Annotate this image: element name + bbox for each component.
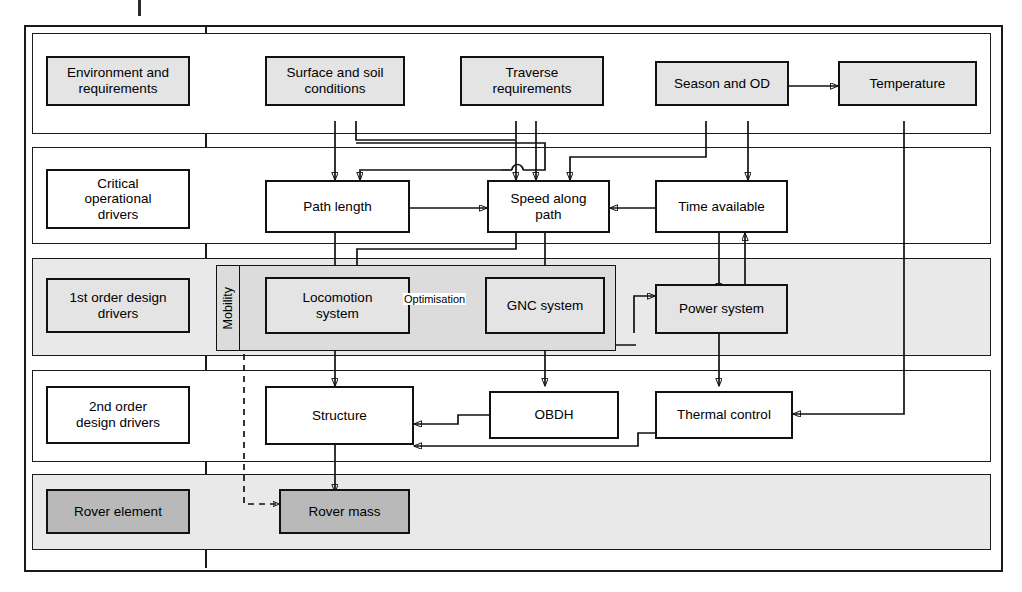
node-critical-operational-drivers[interactable]: Critical operational drivers (46, 169, 190, 229)
first-order-line-1: 1st order design (70, 290, 167, 305)
top-tick-mark (138, 0, 141, 16)
critical-line-2: operational (85, 191, 152, 206)
power-label: Power system (679, 301, 764, 317)
env-line-1: Environment and (67, 65, 169, 80)
node-time-available[interactable]: Time available (655, 180, 788, 233)
rover-element-label: Rover element (74, 504, 162, 520)
node-gnc-system[interactable]: GNC system (485, 277, 605, 334)
surface-line-2: conditions (305, 81, 366, 96)
node-season-and-od[interactable]: Season and OD (655, 61, 789, 106)
gnc-label: GNC system (507, 298, 584, 314)
structure-label: Structure (312, 408, 367, 424)
mobility-label: Mobility (221, 287, 235, 329)
second-order-line-1: 2nd order (89, 399, 147, 414)
surface-line-1: Surface and soil (287, 65, 384, 80)
node-thermal-control[interactable]: Thermal control (655, 391, 793, 439)
node-rover-mass[interactable]: Rover mass (279, 489, 410, 534)
speed-line-2: path (535, 207, 561, 222)
path-length-label: Path length (303, 199, 371, 215)
second-order-line-2: design drivers (76, 415, 160, 430)
node-power-system[interactable]: Power system (655, 284, 788, 334)
node-first-order-design-drivers[interactable]: 1st order design drivers (46, 278, 190, 333)
locomotion-line-2: system (316, 306, 359, 321)
node-locomotion-system[interactable]: Locomotion system (265, 277, 410, 334)
node-second-order-design-drivers[interactable]: 2nd order design drivers (46, 386, 190, 444)
env-line-2: requirements (79, 81, 158, 96)
node-path-length[interactable]: Path length (265, 180, 410, 233)
rover-mass-label: Rover mass (308, 504, 380, 520)
optimisation-edge-label: Optimisation (403, 293, 466, 305)
node-rover-element[interactable]: Rover element (46, 489, 190, 534)
node-environment-and-requirements[interactable]: Environment and requirements (46, 56, 190, 106)
node-surface-and-soil-conditions[interactable]: Surface and soil conditions (265, 56, 405, 106)
speed-line-1: Speed along (511, 191, 587, 206)
node-structure[interactable]: Structure (265, 386, 414, 445)
first-order-line-2: drivers (98, 306, 139, 321)
node-obdh[interactable]: OBDH (489, 391, 619, 439)
node-traverse-requirements[interactable]: Traverse requirements (460, 56, 604, 106)
node-speed-along-path[interactable]: Speed along path (487, 180, 610, 233)
mobility-cell: Mobility (216, 265, 240, 351)
traverse-line-2: requirements (493, 81, 572, 96)
diagram-canvas: Mobility Environment and requirements Su… (0, 0, 1022, 592)
critical-line-3: drivers (98, 207, 139, 222)
critical-line-1: Critical (97, 176, 138, 191)
node-temperature[interactable]: Temperature (838, 61, 977, 106)
locomotion-line-1: Locomotion (303, 290, 373, 305)
obdh-label: OBDH (534, 407, 573, 423)
temperature-label: Temperature (870, 76, 946, 92)
thermal-label: Thermal control (677, 407, 771, 423)
traverse-line-1: Traverse (506, 65, 559, 80)
optimisation-label: Optimisation (404, 293, 465, 305)
time-available-label: Time available (678, 199, 765, 215)
season-label: Season and OD (674, 76, 770, 92)
